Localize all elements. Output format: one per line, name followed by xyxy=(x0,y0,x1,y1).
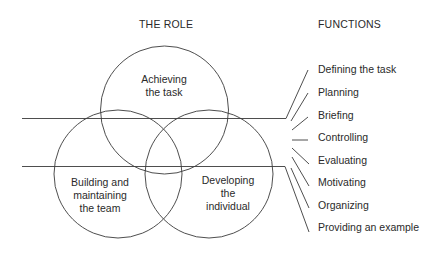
circle-label-task: Achieving the task xyxy=(109,73,219,99)
connector-planning xyxy=(291,93,308,121)
function-item: Planning xyxy=(318,86,359,98)
connector-organizing xyxy=(291,168,309,208)
function-item: Evaluating xyxy=(318,154,367,166)
heading-the-role: THE ROLE xyxy=(139,18,193,30)
function-item: Providing an example xyxy=(318,221,419,233)
diagram-lines xyxy=(0,0,445,253)
function-item: Organizing xyxy=(318,199,369,211)
function-item: Defining the task xyxy=(318,63,396,75)
heading-functions: FUNCTIONS xyxy=(318,18,381,30)
connector-briefing xyxy=(292,117,308,130)
function-item: Briefing xyxy=(318,109,354,121)
circle-label-team: Building and maintaining the team xyxy=(45,176,155,215)
function-item: Motivating xyxy=(318,176,366,188)
function-item: Controlling xyxy=(318,131,368,143)
circle-label-individual: Developing the individual xyxy=(173,174,283,213)
